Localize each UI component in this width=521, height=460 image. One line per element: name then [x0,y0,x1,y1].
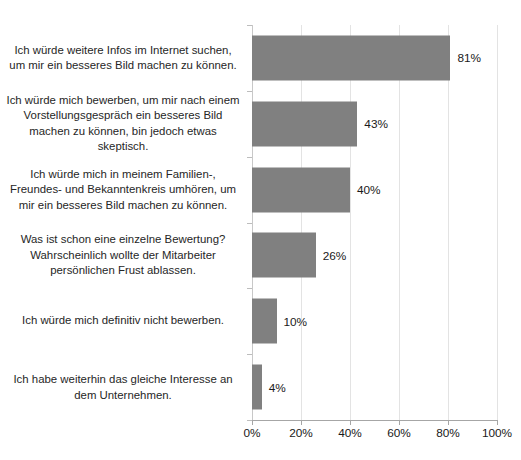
category-label: Ich würde weitere Infos im Internet such… [6,42,244,73]
bar[interactable] [252,167,350,212]
x-tick-label-80: 80% [436,426,460,440]
chart-row: Ich würde mich definitiv nicht bewerben.… [0,288,521,354]
x-tick-label-40: 40% [338,426,362,440]
x-axis-labels: 0%20%40%60%80%100% [252,426,497,446]
x-tick-80 [448,420,449,425]
x-tick-60 [399,420,400,425]
bar-value-label: 40% [350,183,381,197]
chart-row: Ich würde weitere Infos im Internet such… [0,25,521,91]
bar-container: 43% [252,101,497,146]
x-tick-20 [301,420,302,425]
bar-value-label: 4% [262,380,286,394]
category-label: Ich würde mich in meinem Familien-, Freu… [6,166,244,213]
x-axis-ticks [252,420,498,425]
bar-container: 40% [252,167,497,212]
category-label: Was ist schon eine einzelne Bewertung? W… [6,232,244,279]
bar-container: 26% [252,233,497,278]
x-tick-label-100: 100% [482,426,512,440]
x-tick-100 [497,420,498,425]
x-tick-40 [350,420,351,425]
x-tick-label-0: 0% [243,426,260,440]
bar-value-label: 26% [316,248,347,262]
bar[interactable] [252,233,316,278]
x-tick-0 [252,420,253,425]
x-tick-label-20: 20% [289,426,313,440]
bar-value-label: 10% [277,314,308,328]
category-label: Ich würde mich definitiv nicht bewerben. [6,313,244,329]
bar-container: 10% [252,299,497,344]
bar-chart: Ich würde weitere Infos im Internet such… [0,0,521,460]
x-tick-label-60: 60% [387,426,411,440]
bar[interactable] [252,365,262,410]
category-label: Ich würde mich bewerben, um mir nach ein… [6,93,244,155]
chart-row: Ich würde mich bewerben, um mir nach ein… [0,91,521,157]
bar[interactable] [252,299,277,344]
chart-row: Ich habe weiterhin das gleiche Interesse… [0,354,521,420]
chart-row: Ich würde mich in meinem Familien-, Freu… [0,157,521,223]
bar[interactable] [252,35,450,80]
bar-container: 81% [252,35,497,80]
bar-value-label: 81% [450,51,481,65]
chart-row: Was ist schon eine einzelne Bewertung? W… [0,223,521,289]
bar[interactable] [252,101,357,146]
bar-container: 4% [252,365,497,410]
category-label: Ich habe weiterhin das gleiche Interesse… [6,372,244,403]
bar-value-label: 43% [357,117,388,131]
